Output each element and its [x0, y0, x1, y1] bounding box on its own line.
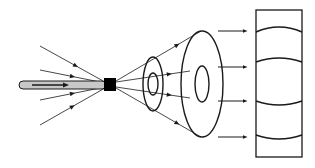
outgoing-ray [116, 88, 201, 137]
arrowhead-icon [166, 72, 171, 76]
large-ring-wavefront [181, 31, 223, 137]
screen-band-arc [256, 27, 302, 32]
parallel-arrows [218, 31, 245, 137]
screen-with-bands [256, 10, 302, 157]
screen-band-arc [256, 101, 302, 105]
screen-band-arc [256, 135, 302, 139]
arrowhead-icon [166, 92, 171, 96]
source-block-square [104, 78, 116, 91]
arrowhead-icon [70, 74, 75, 78]
optics-diagram [0, 0, 315, 168]
outer-ellipse [181, 31, 223, 137]
screen-band-arc [256, 58, 302, 62]
outgoing-ray [116, 87, 190, 98]
source-block [104, 78, 116, 91]
screen-frame [256, 10, 302, 157]
outgoing-ray [116, 31, 201, 81]
arrowhead-icon [70, 92, 75, 96]
small-ring-wavefront [143, 57, 163, 111]
rod [19, 81, 106, 89]
inner-ellipse [195, 66, 209, 102]
diagram-canvas [0, 0, 315, 168]
outer-ellipse [143, 57, 163, 111]
